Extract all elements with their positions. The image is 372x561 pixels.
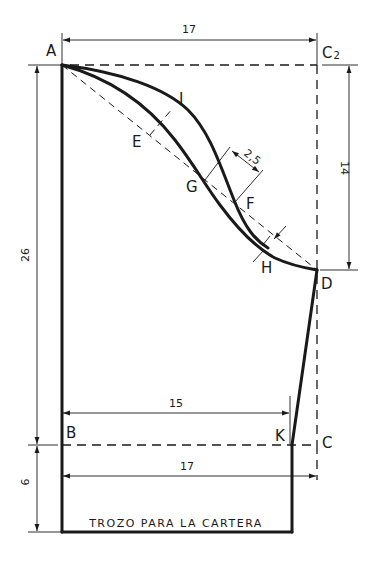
left-height-label: 26 (19, 248, 32, 262)
point-g-label: G (186, 178, 198, 196)
top-width-label: 17 (182, 23, 196, 36)
point-k-label: K (275, 427, 286, 445)
point-c2-label: C2 (322, 44, 340, 62)
left-dimension: 26 6 (19, 65, 62, 532)
top-width-dimension: 17 (62, 23, 317, 65)
point-c-label: C (322, 434, 332, 452)
point-h-label: H (261, 259, 272, 277)
right-height-label: 14 (338, 161, 351, 175)
point-b-label: B (66, 424, 76, 442)
point-d-label: D (321, 275, 333, 293)
pattern-diagram: 17 26 6 14 (0, 0, 372, 561)
point-i-label: I (179, 90, 183, 108)
waist-width-dimension: 15 (63, 396, 290, 444)
point-a-label: A (46, 42, 57, 60)
curve-offset-label: 2,5 (241, 147, 263, 168)
point-e-label: E (132, 133, 141, 151)
waist-width-label: 15 (169, 397, 183, 410)
caption: TROZO PARA LA CARTERA (88, 517, 263, 530)
left-bottom-label: 6 (19, 479, 32, 486)
construction-lines (62, 65, 317, 480)
point-f-label: F (246, 195, 255, 213)
right-dimension: 14 (320, 65, 358, 270)
bottom-width-label: 17 (180, 460, 194, 473)
bottom-width-dimension: 17 (63, 460, 316, 476)
